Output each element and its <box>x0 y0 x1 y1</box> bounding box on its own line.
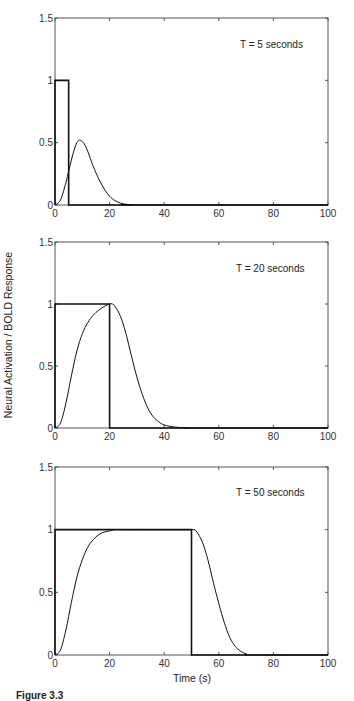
y-tick-label: 1 <box>47 299 53 310</box>
x-tick-label: 100 <box>320 208 337 219</box>
y-tick-label: 0.5 <box>39 587 53 598</box>
y-tick-label: 0.5 <box>39 361 53 372</box>
x-tick-label: 100 <box>320 431 337 442</box>
x-tick-label: 60 <box>213 208 225 219</box>
bold-response-curve <box>55 304 328 428</box>
x-tick-label: 0 <box>52 431 58 442</box>
y-tick-label: 1 <box>47 75 53 86</box>
y-axis-label: Neural Activation / BOLD Response <box>2 252 14 418</box>
x-tick-label: 0 <box>52 208 58 219</box>
panel-t20: T = 20 seconds 02040608010000.511.5 <box>39 237 337 443</box>
y-tick-label: 1.5 <box>39 462 53 473</box>
panel-title: T = 20 seconds <box>236 263 304 274</box>
x-tick-label: 100 <box>320 658 337 669</box>
y-tick-label: 0 <box>47 423 53 434</box>
panel-t50: T = 50 seconds 02040608010000.511.5 <box>39 462 337 670</box>
x-tick-label: 60 <box>213 431 225 442</box>
x-tick-label: 60 <box>213 658 225 669</box>
x-tick-label: 40 <box>159 431 171 442</box>
x-tick-label: 80 <box>268 208 280 219</box>
neural-activation-line <box>55 80 328 205</box>
y-tick-label: 1 <box>47 524 53 535</box>
neural-activation-line <box>55 530 328 655</box>
x-tick-label: 40 <box>159 208 171 219</box>
x-tick-label: 0 <box>52 658 58 669</box>
y-tick-label: 0 <box>47 200 53 211</box>
y-tick-label: 0.5 <box>39 137 53 148</box>
figure-caption: Figure 3.3 <box>16 690 63 701</box>
x-tick-label: 80 <box>268 658 280 669</box>
x-axis-label: Time (s) <box>173 672 211 684</box>
panel-title: T = 5 seconds <box>240 39 303 50</box>
x-tick-label: 20 <box>104 431 116 442</box>
x-tick-label: 20 <box>104 208 116 219</box>
panel-t5: T = 5 seconds 02040608010000.511.5 <box>39 13 337 220</box>
neural-activation-line <box>55 304 328 428</box>
y-tick-label: 0 <box>47 650 53 661</box>
bold-response-curve <box>55 140 328 205</box>
y-tick-label: 1.5 <box>39 13 53 24</box>
x-tick-label: 20 <box>104 658 116 669</box>
x-tick-label: 80 <box>268 431 280 442</box>
x-tick-label: 40 <box>159 658 171 669</box>
y-tick-label: 1.5 <box>39 237 53 248</box>
panel-title: T = 50 seconds <box>236 487 304 498</box>
